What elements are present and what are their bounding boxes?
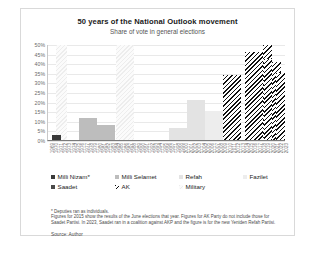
legend-swatch-refah xyxy=(179,175,183,179)
legend-item-saadet[interactable]: Saadet xyxy=(51,183,105,190)
y-axis-tick-label: 25% xyxy=(35,90,45,96)
legend-row-1: Milli Nizam*Milli SelametRefahFazilet xyxy=(51,173,283,180)
chart-title: 50 years of the National Outlook movemen… xyxy=(21,17,294,26)
legend-label-military: Military xyxy=(186,183,206,190)
plot-area: 0%5%10%15%20%25%30%35%40%45%50% 19691970… xyxy=(47,45,285,141)
chart-figure: 50 years of the National Outlook movemen… xyxy=(20,8,295,236)
y-axis-tick-label: 0% xyxy=(38,138,46,144)
y-axis-tick-label: 40% xyxy=(35,61,45,67)
y-axis-tick-label: 30% xyxy=(35,80,45,86)
legend-label-fazilet: Fazilet xyxy=(250,173,268,180)
legend-swatch-nizam xyxy=(51,175,55,179)
legend-swatch-fazilet xyxy=(243,175,247,179)
footnote-detail: Figures for 2015 show the results of the… xyxy=(51,214,279,225)
y-axis-tick-label: 20% xyxy=(35,100,45,106)
legend-swatch-military xyxy=(179,185,183,189)
chart-footnotes: * Deputies ran as individuals. Figures f… xyxy=(51,209,279,225)
legend-item-military[interactable]: Military xyxy=(179,183,233,190)
chart-source: Source: Author xyxy=(51,232,83,237)
legend-label-nizam: Milli Nizam* xyxy=(58,173,90,180)
legend-item-refah[interactable]: Refah xyxy=(179,173,233,180)
legend-item-ak[interactable]: AK xyxy=(115,183,169,190)
legend-row-2: SaadetAKMilitary xyxy=(51,183,283,190)
gridline xyxy=(47,141,285,142)
y-axis-tick-label: 10% xyxy=(35,119,45,125)
y-axis-tick-label: 50% xyxy=(35,42,45,48)
plot-border xyxy=(47,45,285,141)
y-axis-tick-label: 5% xyxy=(38,128,46,134)
x-axis-tick-label: 2023 xyxy=(284,143,289,153)
chart-subtitle: Share of vote in general elections xyxy=(21,28,294,35)
chart-legend: Milli Nizam*Milli SelametRefahFazilet Sa… xyxy=(51,173,283,193)
legend-label-refah: Refah xyxy=(186,173,203,180)
legend-item-selamet[interactable]: Milli Selamet xyxy=(115,173,169,180)
legend-swatch-saadet xyxy=(51,185,55,189)
legend-label-selamet: Milli Selamet xyxy=(122,173,157,180)
legend-swatch-ak xyxy=(115,185,119,189)
legend-item-fazilet[interactable]: Fazilet xyxy=(243,173,297,180)
legend-label-saadet: Saadet xyxy=(58,183,78,190)
legend-swatch-selamet xyxy=(115,175,119,179)
y-axis-tick-label: 15% xyxy=(35,109,45,115)
y-axis-tick-label: 35% xyxy=(35,71,45,77)
legend-label-ak: AK xyxy=(122,183,130,190)
y-axis-tick-label: 45% xyxy=(35,52,45,58)
legend-item-nizam[interactable]: Milli Nizam* xyxy=(51,173,105,180)
